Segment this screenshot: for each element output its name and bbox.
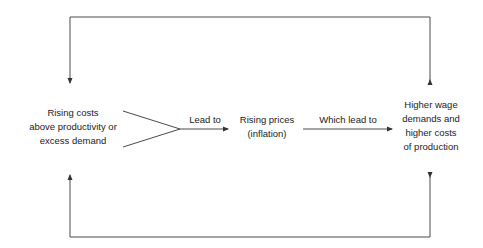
node-rising-prices-line-1: Rising prices	[230, 113, 304, 127]
node-rising-prices-line-2: (inflation)	[230, 127, 304, 141]
bottom-loop-connector	[70, 172, 430, 237]
edge-label-which-lead-to-text: Which lead to	[319, 114, 377, 125]
edge-label-which-lead-to: Which lead to	[308, 113, 388, 127]
node-rising-costs-line-3: excess demand	[14, 134, 132, 148]
bottom-loop-start-arrowhead	[428, 172, 433, 178]
node-higher-wages-line-1: Higher wage	[390, 98, 472, 112]
node-higher-wages-line-4: of production	[390, 140, 472, 154]
node-rising-costs-line-2: above productivity or	[14, 120, 132, 134]
edge-label-lead-to: Lead to	[180, 113, 230, 127]
top-loop-start-arrowhead	[428, 79, 433, 85]
node-higher-wages-line-2: demands and	[390, 112, 472, 126]
top-loop-connector	[70, 17, 430, 85]
edge-label-lead-to-text: Lead to	[189, 114, 221, 125]
node-rising-costs-line-1: Rising costs	[14, 106, 132, 120]
node-higher-wages: Higher wage demands and higher costs of …	[390, 98, 472, 154]
node-rising-costs: Rising costs above productivity or exces…	[14, 106, 132, 148]
node-rising-prices: Rising prices (inflation)	[230, 113, 304, 141]
node-higher-wages-line-3: higher costs	[390, 126, 472, 140]
